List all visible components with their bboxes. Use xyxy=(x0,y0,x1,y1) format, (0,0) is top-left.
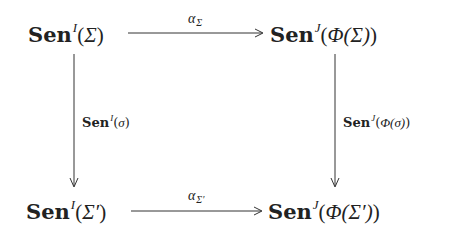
superscript: I xyxy=(71,197,75,212)
top-arrow-label: αΣ xyxy=(188,12,202,26)
node-top-left: SenI(Σ) xyxy=(28,24,104,46)
argument: Φ(Σ) xyxy=(328,23,370,47)
superscript: J xyxy=(313,197,319,212)
functor: Sen xyxy=(268,199,312,224)
left-arrow-label: SenI(σ) xyxy=(82,116,130,129)
functor: Sen xyxy=(26,199,70,224)
right-arrow-label: SenJ(Φ(σ)) xyxy=(343,116,410,129)
node-bottom-left: SenI(Σ′) xyxy=(26,201,106,223)
superscript: J xyxy=(315,20,321,35)
functor: Sen xyxy=(270,22,314,47)
node-bottom-right: SenJ(Φ(Σ′)) xyxy=(268,201,380,223)
node-top-right: SenJ(Φ(Σ)) xyxy=(270,24,377,46)
argument: Σ′ xyxy=(82,200,99,224)
superscript: I xyxy=(73,20,77,35)
functor: Sen xyxy=(28,22,72,47)
bottom-arrow-label: αΣ′ xyxy=(188,189,205,203)
argument: Σ xyxy=(84,23,96,47)
argument: Φ(Σ′) xyxy=(326,200,373,224)
